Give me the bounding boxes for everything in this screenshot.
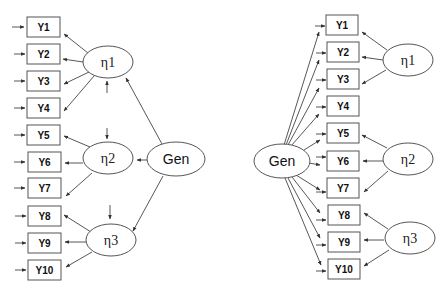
right-indicator-y1: Y1 (326, 15, 358, 35)
right-indicator-y4: Y4 (327, 96, 359, 116)
right-general-factor: Gen (254, 144, 310, 178)
left-indicator-y3: Y3 (27, 71, 60, 91)
svg-text:Y8: Y8 (338, 210, 351, 221)
svg-text:η1: η1 (101, 55, 115, 70)
right-indicator-y7: Y7 (327, 178, 359, 198)
svg-text:Y8: Y8 (38, 211, 51, 222)
svg-text:Y1: Y1 (37, 22, 50, 33)
svg-text:η3: η3 (104, 233, 118, 248)
left-indicator-y1: Y1 (27, 17, 60, 37)
svg-text:Y6: Y6 (38, 157, 51, 168)
left-model: Y1 Y2 Y3 Y4 Y5 Y6 Y7 Y8 Y9 Y10 (12, 17, 205, 280)
left-indicator-y5: Y5 (27, 125, 60, 145)
svg-text:Y1: Y1 (336, 20, 349, 31)
svg-text:Y10: Y10 (335, 264, 353, 275)
right-model: Y1 Y2 Y3 Y4 Y5 Y6 Y7 Y8 Y9 Y10 (254, 15, 435, 279)
svg-text:Y9: Y9 (38, 238, 51, 249)
svg-text:η2: η2 (101, 151, 115, 166)
svg-text:Y2: Y2 (337, 47, 350, 58)
svg-text:Y2: Y2 (37, 49, 50, 60)
right-indicator-y5: Y5 (327, 123, 359, 143)
svg-text:Y5: Y5 (337, 128, 350, 139)
left-factor-eta2: η2 (83, 142, 133, 174)
svg-text:Y10: Y10 (36, 265, 54, 276)
left-indicator-y7: Y7 (28, 178, 61, 198)
left-general-factor: Gen (147, 142, 205, 176)
left-indicator-y8: Y8 (28, 206, 61, 226)
right-indicator-y3: Y3 (327, 69, 359, 89)
svg-text:Y5: Y5 (37, 130, 50, 141)
svg-text:η2: η2 (401, 152, 415, 167)
svg-text:Gen: Gen (269, 153, 295, 169)
right-indicator-y10: Y10 (328, 259, 360, 279)
svg-text:η1: η1 (401, 53, 415, 68)
left-indicator-y9: Y9 (28, 233, 61, 253)
right-error-arrows (315, 26, 326, 271)
right-indicator-y6: Y6 (327, 151, 359, 171)
left-indicator-y6: Y6 (28, 152, 61, 172)
right-factor-eta1: η1 (383, 44, 433, 76)
left-indicator-y4: Y4 (27, 98, 60, 118)
svg-text:Y4: Y4 (337, 101, 350, 112)
diagram-canvas: Y1 Y2 Y3 Y4 Y5 Y6 Y7 Y8 Y9 Y10 (0, 0, 447, 292)
left-factor-eta3: η3 (86, 224, 136, 256)
svg-text:Gen: Gen (163, 151, 189, 167)
svg-text:Y6: Y6 (337, 156, 350, 167)
left-indicator-y2: Y2 (27, 44, 60, 64)
svg-text:Y7: Y7 (337, 183, 350, 194)
svg-text:Y3: Y3 (37, 76, 50, 87)
svg-text:Y7: Y7 (38, 183, 51, 194)
right-factor-eta2: η2 (383, 143, 433, 175)
svg-text:η3: η3 (403, 231, 417, 246)
svg-text:Y4: Y4 (37, 103, 50, 114)
left-indicator-y10: Y10 (28, 260, 61, 280)
right-factor-eta3: η3 (385, 222, 435, 254)
svg-text:Y9: Y9 (338, 237, 351, 248)
svg-text:Y3: Y3 (337, 74, 350, 85)
left-error-arrows (12, 27, 26, 270)
right-indicator-y8: Y8 (328, 205, 360, 225)
right-indicator-y9: Y9 (328, 232, 360, 252)
left-factor-eta1: η1 (83, 46, 133, 78)
right-indicator-y2: Y2 (327, 42, 359, 62)
